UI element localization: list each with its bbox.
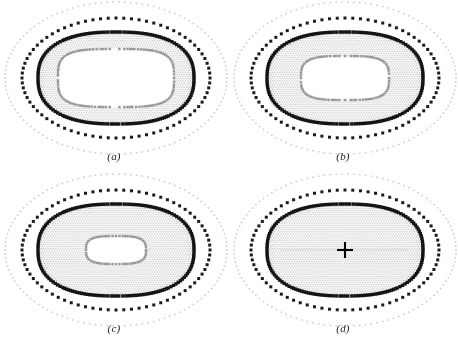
panel-label-d: (d) — [323, 322, 363, 334]
panel-label-a: (a) — [94, 150, 134, 162]
figure-root: (a) (b) (c) (d) — [0, 0, 458, 345]
mesh-figure-canvas — [0, 0, 458, 345]
panel-label-b: (b) — [323, 150, 363, 162]
panel-label-c: (c) — [94, 322, 134, 334]
